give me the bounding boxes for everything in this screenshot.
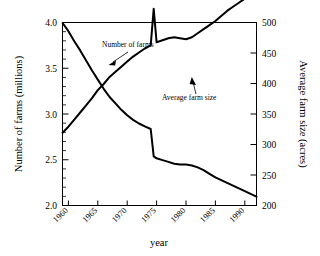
y2tick-label-0: 500 [262,18,277,28]
y2tick-label-3: 350 [262,110,277,120]
xtick-label-6: 1990 [227,205,246,224]
series-line-average-farm-size [63,0,257,133]
y2tick-label-2: 400 [262,79,277,89]
ytick-label-0: 4.0 [45,18,57,28]
y2tick-label-1: 450 [262,49,277,59]
xtick-label-4: 1980 [168,205,187,224]
annotation-label-number-of-farms: Number of farms [102,40,154,49]
xtick-label-1: 1965 [80,205,99,224]
xtick-label-5: 1985 [198,205,217,224]
xtick-label-2: 1970 [110,205,129,224]
y2tick-label-5: 250 [262,171,277,181]
ytick-label-3: 2.5 [45,155,57,165]
right-axis-ticks [251,23,257,206]
ytick-label-4: 2.0 [45,201,57,211]
y2tick-label-6: 200 [262,201,277,211]
series-line-number-of-farms [63,23,257,197]
ytick-label-2: 3.0 [45,110,57,120]
x-axis-ticks [68,201,244,206]
plot-frame [63,23,257,206]
y2tick-label-4: 300 [262,140,277,150]
y-axis-title: Number of farms (millions) [13,55,25,172]
x-axis-title: year [150,237,169,248]
xtick-label-3: 1975 [139,205,158,224]
chart-figure: 4.0 3.5 3.0 2.5 2.0 500 450 400 350 300 … [0,0,320,256]
y2-axis-title: Average farm size (acres) [297,60,309,168]
ytick-label-1: 3.5 [45,64,57,74]
chart-canvas: 4.0 3.5 3.0 2.5 2.0 500 450 400 350 300 … [0,0,320,256]
annotation-label-average-farm-size: Average farm size [162,93,217,102]
annotation-arrow-average-farm-size [190,77,196,94]
